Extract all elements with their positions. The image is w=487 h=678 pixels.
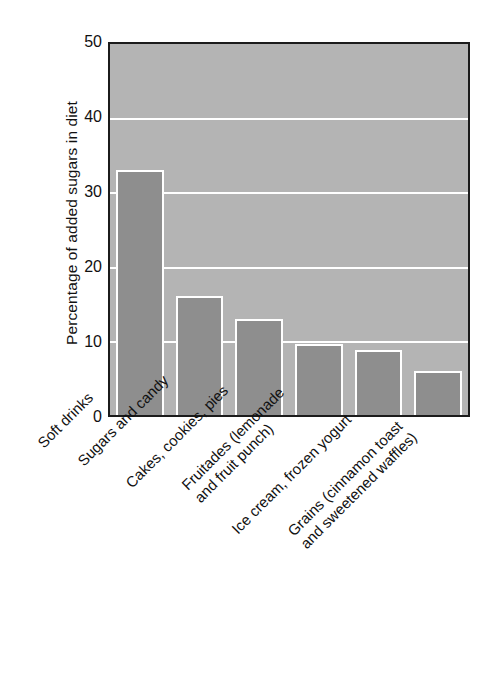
y-tick-label-40: 40 bbox=[66, 109, 102, 125]
bar-ice-cream-frozen-yogurt bbox=[355, 350, 403, 415]
plot-area bbox=[108, 42, 470, 417]
y-tick-label-20: 20 bbox=[66, 259, 102, 275]
gridline-30 bbox=[110, 267, 468, 269]
y-tick-label-50: 50 bbox=[66, 34, 102, 50]
y-tick-label-30: 30 bbox=[66, 184, 102, 200]
gridline-40 bbox=[110, 341, 468, 343]
bar-grains bbox=[414, 371, 462, 415]
x-tick-line-1: Grains (cinnamon toast bbox=[284, 417, 406, 539]
x-tick-label-grains: Grains (cinnamon toast and sweetened waf… bbox=[284, 416, 420, 552]
gridline-20 bbox=[110, 192, 468, 194]
bar-fruitades bbox=[295, 344, 343, 415]
x-axis-tick-labels: Soft drinks Sugars and candy Cakes, cook… bbox=[0, 417, 487, 678]
gridline-10 bbox=[110, 118, 468, 120]
chart-figure: Percentage of added sugars in diet 50 40… bbox=[0, 0, 487, 678]
y-tick-label-10: 10 bbox=[66, 334, 102, 350]
